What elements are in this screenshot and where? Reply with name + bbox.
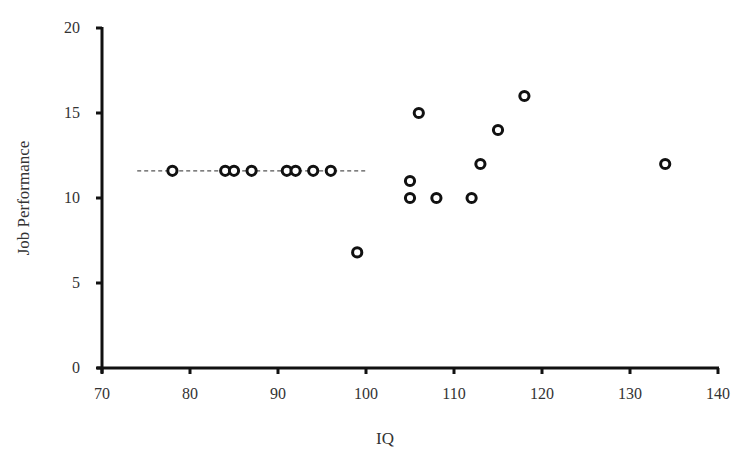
x-tick-label: 80 (182, 385, 198, 402)
data-point (326, 166, 335, 175)
data-point (247, 166, 256, 175)
y-axis-title: Job Performance (14, 141, 33, 256)
y-tick-label: 10 (64, 189, 80, 206)
data-point (493, 125, 502, 134)
data-point (405, 176, 414, 185)
data-point (467, 193, 476, 202)
data-point (405, 193, 414, 202)
x-tick-label: 120 (530, 385, 554, 402)
data-point (661, 159, 670, 168)
x-tick-label: 110 (442, 385, 465, 402)
y-tick-label: 20 (64, 19, 80, 36)
data-point (520, 91, 529, 100)
data-points (168, 91, 670, 257)
x-tick-label: 140 (706, 385, 730, 402)
x-tick-label: 70 (94, 385, 110, 402)
x-tick-label: 130 (618, 385, 642, 402)
x-tick-label: 90 (270, 385, 286, 402)
axes: 05101520708090100110120130140 (64, 19, 730, 402)
y-tick-label: 15 (64, 104, 80, 121)
data-point (168, 166, 177, 175)
data-point (414, 108, 423, 117)
y-tick-label: 0 (72, 359, 80, 376)
x-axis-title: IQ (376, 429, 394, 448)
data-point (309, 166, 318, 175)
data-point (432, 193, 441, 202)
scatter-chart: 05101520708090100110120130140 IQ Job Per… (0, 0, 750, 457)
data-point (291, 166, 300, 175)
y-tick-label: 5 (72, 274, 80, 291)
data-point (476, 159, 485, 168)
data-point (353, 248, 362, 257)
data-point (229, 166, 238, 175)
x-tick-label: 100 (354, 385, 378, 402)
